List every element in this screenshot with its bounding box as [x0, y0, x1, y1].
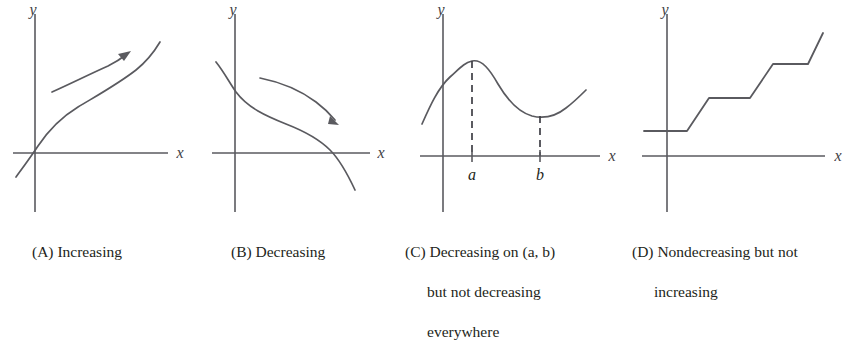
y-axis-label: y	[27, 1, 37, 19]
panel-b-caption-line-1: (B) Decreasing	[231, 242, 406, 262]
panel-b-caption: (B) Decreasing	[231, 222, 406, 282]
panel-b: y x (B) Decreasing	[200, 0, 400, 311]
x-axis-label: x	[607, 147, 615, 164]
panel-d-caption: (D) Nondecreasing but not increasing	[632, 222, 860, 322]
y-axis-label: y	[227, 1, 237, 19]
direction-arrow-line	[260, 78, 335, 120]
decreasing-curve	[216, 62, 355, 190]
panel-a-plot: y x	[0, 0, 200, 215]
panel-c: a b y x (C) Decreasing on (a, b) but not…	[400, 0, 630, 311]
staircase-curve	[644, 33, 823, 131]
panel-c-caption-line-2: but not decreasing	[405, 282, 625, 302]
panel-d-caption-line-2: increasing	[632, 282, 860, 302]
y-axis-label: y	[659, 1, 669, 19]
x-axis-label: x	[833, 147, 841, 164]
panel-a-caption-line-1: (A) Increasing	[32, 242, 202, 262]
direction-arrow-line	[52, 54, 127, 92]
increasing-curve	[16, 42, 160, 177]
panel-c-plot: a b y x	[400, 0, 630, 215]
panel-c-caption-line-1: (C) Decreasing on (a, b)	[405, 242, 625, 262]
tick-label-b: b	[536, 166, 544, 183]
panel-d-caption-line-1: (D) Nondecreasing but not	[632, 242, 860, 262]
panel-d-plot: y x	[630, 0, 860, 215]
local-extrema-curve	[422, 61, 586, 124]
y-axis-label: y	[435, 1, 445, 19]
tick-label-a: a	[468, 166, 476, 183]
panel-b-plot: y x	[200, 0, 400, 215]
panel-c-caption: (C) Decreasing on (a, b) but not decreas…	[405, 222, 625, 344]
panel-c-caption-line-3: everywhere	[405, 322, 625, 342]
x-axis-label: x	[175, 144, 183, 161]
panel-a-caption: (A) Increasing	[32, 222, 202, 282]
panel-d: y x (D) Nondecreasing but not increasing	[630, 0, 860, 311]
panel-a: y x (A) Increasing	[0, 0, 200, 311]
x-axis-label: x	[376, 144, 384, 161]
